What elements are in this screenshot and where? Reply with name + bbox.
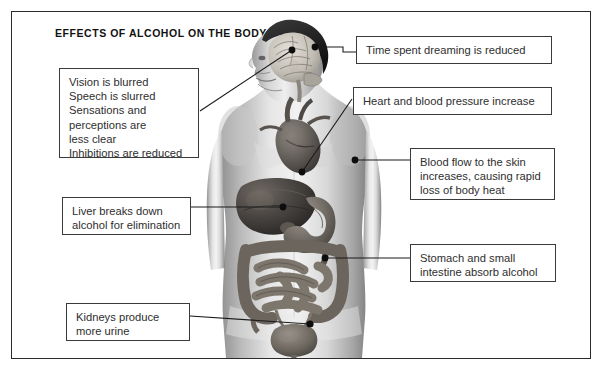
dot-liver — [280, 204, 287, 211]
dot-heart — [299, 169, 306, 176]
leader-heart — [302, 99, 352, 172]
callout-heart[interactable]: Heart and blood pressure increase — [353, 87, 552, 115]
callout-kidneys[interactable]: Kidneys produce more urine — [66, 303, 190, 341]
leader-dreaming — [315, 47, 356, 52]
callout-skin-blood-flow[interactable]: Blood flow to the skin increases, causin… — [410, 148, 555, 200]
dot-dreaming — [312, 44, 319, 51]
callout-dreaming[interactable]: Time spent dreaming is reduced — [356, 36, 552, 64]
dot-stomach — [322, 255, 329, 262]
dot-brain-effects — [289, 47, 296, 54]
dot-skin — [352, 157, 359, 164]
leader-brain-effects — [200, 50, 292, 111]
diagram-root: EFFECTS OF ALCOHOL ON THE BODY — [0, 0, 604, 372]
callout-liver[interactable]: Liver breaks down alcohol for eliminatio… — [62, 197, 191, 235]
callout-stomach[interactable]: Stomach and small intestine absorb alcoh… — [410, 244, 556, 282]
leader-kidneys — [190, 316, 310, 324]
callout-brain-effects[interactable]: Vision is blurred Speech is slurred Sens… — [59, 68, 199, 158]
dot-kidneys — [306, 320, 313, 327]
